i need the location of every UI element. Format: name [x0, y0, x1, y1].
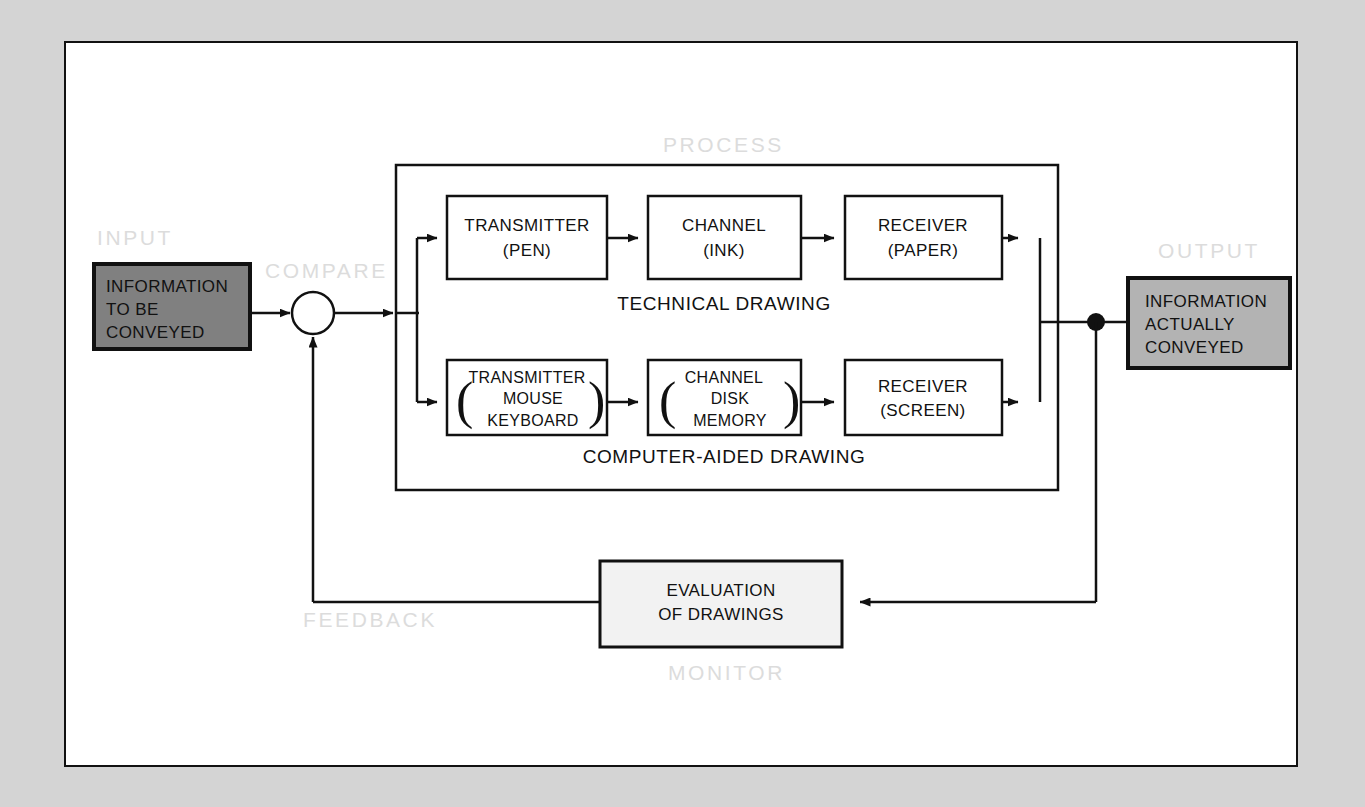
- ghost-label-process: PROCESS: [663, 133, 784, 156]
- monitor-block[interactable]: [600, 561, 842, 647]
- input-block-line-2: TO BE: [106, 300, 159, 319]
- ghost-label-feedback: FEEDBACK: [303, 608, 437, 631]
- block-channel-disk-memory-head: CHANNEL: [685, 369, 764, 386]
- left-paren-icon: (: [456, 372, 473, 430]
- block-channel-ink-line-2: (INK): [703, 241, 745, 260]
- block-transmitter-mouse-keyboard-stack-2: KEYBOARD: [487, 412, 578, 429]
- ghost-label-input: INPUT: [97, 226, 173, 249]
- left-paren-icon-2: (: [659, 372, 676, 430]
- right-paren-icon: ): [588, 372, 605, 430]
- block-receiver-paper-line-1: RECEIVER: [878, 216, 968, 235]
- block-receiver-paper-line-2: (PAPER): [888, 241, 959, 260]
- output-block-line-2: ACTUALLY: [1145, 315, 1235, 334]
- ghost-label-output: OUTPUT: [1158, 239, 1260, 262]
- monitor-block-line-1: EVALUATION: [666, 581, 775, 600]
- block-channel-disk-memory-stack-1: DISK: [711, 390, 750, 407]
- output-block-line-1: INFORMATION: [1145, 292, 1267, 311]
- block-receiver-paper[interactable]: [845, 196, 1002, 279]
- block-channel-ink-line-1: CHANNEL: [682, 216, 766, 235]
- block-transmitter-mouse-keyboard-head: TRANSMITTER: [468, 369, 585, 386]
- block-transmitter-pen-line-2: (PEN): [503, 241, 551, 260]
- ghost-label-compare: COMPARE: [265, 259, 388, 282]
- block-channel-disk-memory-stack-2: MEMORY: [693, 412, 767, 429]
- block-receiver-screen-line-2: (SCREEN): [880, 401, 965, 420]
- block-transmitter-pen-line-1: TRANSMITTER: [464, 216, 589, 235]
- figure-canvas: INPUT COMPARE PROCESS OUTPUT FEEDBACK MO…: [0, 0, 1365, 807]
- input-block-line-3: CONVEYED: [106, 323, 205, 342]
- block-receiver-screen[interactable]: [845, 360, 1002, 435]
- block-transmitter-mouse-keyboard-stack-1: MOUSE: [503, 390, 563, 407]
- row-caption-technical-drawing: TECHNICAL DRAWING: [617, 293, 831, 314]
- input-block-line-1: INFORMATION: [106, 277, 228, 296]
- row-caption-computer-aided-drawing: COMPUTER-AIDED DRAWING: [583, 446, 866, 467]
- block-receiver-screen-line-1: RECEIVER: [878, 377, 968, 396]
- block-diagram: INPUT COMPARE PROCESS OUTPUT FEEDBACK MO…: [0, 0, 1365, 807]
- right-paren-icon-2: ): [783, 372, 800, 430]
- ghost-label-monitor: MONITOR: [668, 661, 785, 684]
- block-channel-ink[interactable]: [648, 196, 801, 279]
- block-transmitter-pen[interactable]: [447, 196, 607, 279]
- output-block-line-3: CONVEYED: [1145, 338, 1244, 357]
- monitor-block-line-2: OF DRAWINGS: [658, 605, 784, 624]
- comparator-node[interactable]: [292, 292, 334, 334]
